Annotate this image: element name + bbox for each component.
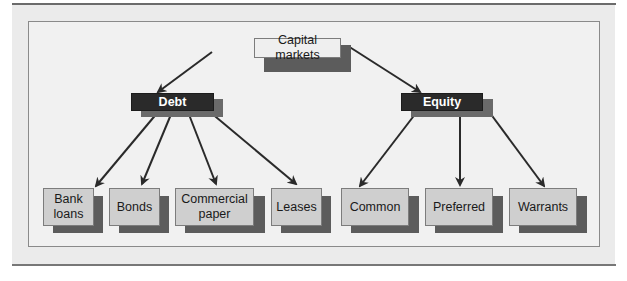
arrow-equity-warrants [490,113,544,186]
node-label: Leases [276,200,316,215]
arrow-root-debt [158,52,212,92]
node-label: Warrants [518,200,568,215]
node-label: Common [350,200,401,215]
arrow-debt-leases [210,112,296,184]
node-label: Bonds [117,200,152,215]
node-label-line1: Bank [54,192,83,207]
node-box: Warrants [509,188,577,226]
arrow-equity-common [360,113,416,186]
node-label: Capital markets [255,33,340,63]
node-box: Preferred [425,188,493,226]
node-label-line1: Commercial [181,192,248,207]
arrow-debt-bonds [142,112,172,184]
node-label-line2: loans [54,207,84,222]
arrow-debt-bank-loans [96,112,158,186]
node-box: Debt [131,93,214,111]
node-box: Capital markets [254,38,341,58]
node-label: Preferred [433,200,485,215]
arrow-debt-commercial-paper [188,112,216,184]
node-label-line2: paper [199,207,231,222]
node-box: Common [341,188,409,226]
node-box: Bank loans [43,188,94,226]
node-box: Bonds [109,188,160,226]
node-label: Equity [423,95,461,110]
arrow-root-equity [348,46,420,92]
node-box: Equity [401,93,483,111]
node-box: Commercial paper [175,188,254,226]
node-box: Leases [271,188,322,226]
node-label: Debt [159,95,187,110]
